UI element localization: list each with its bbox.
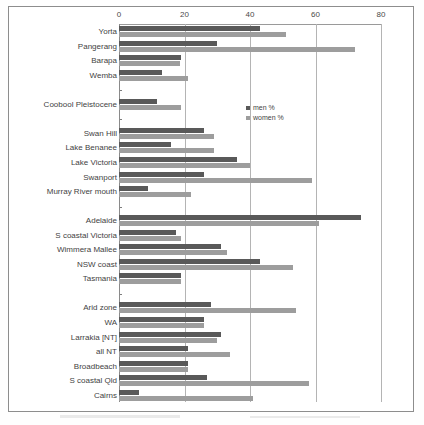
bar-men: [119, 70, 162, 75]
x-tick-label-0: 0: [117, 9, 121, 20]
y-axis-labels: YortaPangerangBarapaWembaCoobool Pleisto…: [2, 24, 117, 402]
bar-women: [119, 47, 355, 52]
bar-men: [119, 346, 188, 351]
bar-women: [119, 396, 253, 401]
y-axis-label: Lake Benanee: [5, 143, 117, 153]
legend-item-men: men %: [246, 103, 284, 113]
bar-women: [119, 32, 286, 37]
bar-women: [119, 148, 214, 153]
y-axis-label: Wemba: [5, 71, 117, 81]
scan-artifact: [250, 416, 360, 418]
bar-men: [119, 332, 221, 337]
bar-men: [119, 186, 148, 191]
y-axis-label: Barapa: [5, 56, 117, 66]
bar-group: [119, 273, 381, 285]
bar-women: [119, 192, 191, 197]
y-axis-label: S coastal Victoria: [5, 231, 117, 241]
bar-group: [119, 302, 381, 314]
y-axis-label: Tasmania: [5, 274, 117, 284]
y-axis-label: Arid zone: [5, 303, 117, 313]
y-axis-label: Swanport: [5, 173, 117, 183]
y-axis-label: all NT: [5, 347, 117, 357]
bar-men: [119, 375, 207, 380]
bar-women: [119, 352, 230, 357]
x-axis: 020406080: [119, 9, 381, 22]
bar-men: [119, 99, 157, 104]
legend-swatch-women-icon: [246, 116, 250, 120]
bar-men: [119, 41, 217, 46]
bar-men: [119, 215, 361, 220]
bar-men: [119, 259, 260, 264]
bar-men: [119, 317, 204, 322]
scan-artifact: [60, 415, 180, 418]
bar-women: [119, 76, 188, 81]
bar-men: [119, 172, 204, 177]
bar-women: [119, 279, 181, 284]
bar-group: [119, 70, 381, 82]
y-axis-label: Coobool Pleistocene: [5, 100, 117, 110]
y-axis-label: S coastal Qld: [5, 376, 117, 386]
bar-group: [119, 41, 381, 53]
bar-group: [119, 259, 381, 271]
bar-women: [119, 221, 319, 226]
bar-women: [119, 338, 217, 343]
bar-group: [119, 375, 381, 387]
bar-group: [119, 215, 381, 227]
bar-group: [119, 346, 381, 358]
bar-men: [119, 244, 221, 249]
y-axis-label: Swan Hill: [5, 129, 117, 139]
bar-men: [119, 361, 188, 366]
bar-group: [119, 244, 381, 256]
x-tick-label-60: 60: [311, 9, 320, 20]
bar-group: [119, 172, 381, 184]
bar-men: [119, 230, 176, 235]
bar-men: [119, 142, 171, 147]
y-axis-label: WA: [5, 318, 117, 328]
plot-area: [119, 24, 381, 402]
gridline-80: [381, 24, 382, 402]
bar-women: [119, 323, 204, 328]
chart-legend: men % women %: [246, 103, 284, 123]
y-axis-label: NSW coast: [5, 260, 117, 270]
legend-label-women: women %: [253, 113, 284, 123]
y-axis-label: Wimmera Mallee: [5, 245, 117, 255]
y-axis-label: Cairns: [5, 391, 117, 401]
chart-figure: 020406080 YortaPangerangBarapaWembaCoobo…: [0, 0, 424, 425]
bar-group: [119, 157, 381, 169]
bar-men: [119, 55, 181, 60]
bar-women: [119, 105, 181, 110]
x-tick-label-20: 20: [180, 9, 189, 20]
bar-women: [119, 61, 180, 66]
bar-group: [119, 390, 381, 402]
bar-women: [119, 134, 214, 139]
bar-women: [119, 308, 296, 313]
bar-men: [119, 302, 211, 307]
legend-swatch-men-icon: [246, 106, 250, 110]
y-axis-label: Adelaide: [5, 216, 117, 226]
bar-group: [119, 361, 381, 373]
y-axis-label: Broadbeach: [5, 362, 117, 372]
bar-men: [119, 273, 181, 278]
bar-women: [119, 367, 188, 372]
bar-group: [119, 26, 381, 38]
bar-women: [119, 250, 227, 255]
bar-men: [119, 390, 139, 395]
legend-item-women: women %: [246, 113, 284, 123]
bar-group: [119, 128, 381, 140]
y-axis-label: Larrakia [NT]: [5, 333, 117, 343]
bar-women: [119, 163, 250, 168]
bar-group: [119, 186, 381, 198]
bar-group: [119, 317, 381, 329]
bar-group: [119, 230, 381, 242]
bar-group: [119, 332, 381, 344]
bar-men: [119, 128, 204, 133]
bar-women: [119, 178, 312, 183]
bar-women: [119, 265, 293, 270]
bar-women: [119, 381, 309, 386]
legend-label-men: men %: [253, 103, 275, 113]
y-axis-label: Lake Victoria: [5, 158, 117, 168]
y-axis-label: Yorta: [5, 27, 117, 37]
x-tick-label-40: 40: [246, 9, 255, 20]
y-axis-label: Murray River mouth: [5, 187, 117, 197]
bar-men: [119, 157, 237, 162]
